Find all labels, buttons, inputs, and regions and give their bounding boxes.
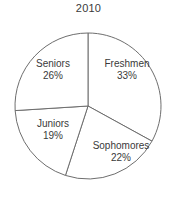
pie-chart-figure: 2010 Freshmen 33% Seniors 26% Juniors 19… (0, 0, 177, 204)
pie-slice-seniors (15, 33, 88, 111)
pie-chart-canvas (0, 0, 177, 204)
pie-slices-group (15, 33, 161, 179)
